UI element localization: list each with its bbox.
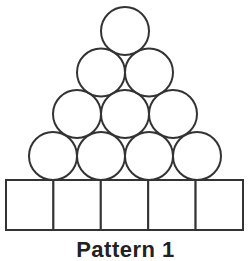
- circle-row-4: [77, 132, 125, 180]
- base-cell: [101, 180, 148, 230]
- base-cell: [148, 180, 195, 230]
- base-cell: [196, 180, 243, 230]
- base-cell: [53, 180, 100, 230]
- circle-row-2: [125, 49, 173, 97]
- stacked-circles: [29, 7, 221, 180]
- circle-row-3: [53, 90, 101, 138]
- pattern-caption: Pattern 1: [0, 238, 251, 261]
- circle-row-3: [149, 90, 197, 138]
- base-cell: [6, 180, 53, 230]
- circle-row-4: [125, 132, 173, 180]
- circle-row-4: [173, 132, 221, 180]
- circle-row-3: [101, 90, 149, 138]
- circle-row-4: [29, 132, 77, 180]
- circle-row-1: [101, 7, 149, 55]
- base-cells: [6, 180, 243, 230]
- circle-row-2: [77, 49, 125, 97]
